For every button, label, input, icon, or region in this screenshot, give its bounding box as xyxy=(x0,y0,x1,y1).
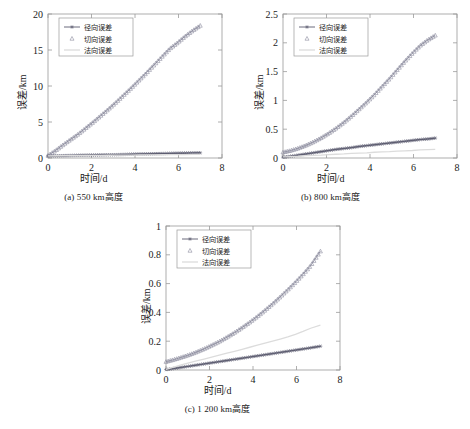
y-tick-label: 10 xyxy=(33,81,43,92)
plot-area-a: 0246805101520径向误差切向误差法向误差 xyxy=(0,0,235,185)
y-tick-label: 0 xyxy=(156,365,161,376)
legend-label: 切向误差 xyxy=(84,35,112,44)
legend-label: 径向误差 xyxy=(84,23,112,32)
x-axis-label-c: 时间/d xyxy=(100,382,335,397)
legend: 径向误差切向误差法向误差 xyxy=(294,18,368,56)
y-tick-label: 5 xyxy=(38,117,43,128)
plot-area-c: 0246800.20.40.60.81径向误差切向误差法向误差 xyxy=(118,212,353,397)
legend: 径向误差切向误差法向误差 xyxy=(59,18,133,56)
y-axis-label-b: 误差/km xyxy=(251,74,266,110)
caption-c: (c) 1 200 km高度 xyxy=(100,402,335,415)
subplot-a: 0246805101520径向误差切向误差法向误差 时间/d 误差/km (a)… xyxy=(0,0,235,215)
legend-label: 切向误差 xyxy=(202,247,230,256)
caption-a: (a) 550 km高度 xyxy=(0,190,211,203)
y-tick-label: 1 xyxy=(156,221,161,232)
y-tick-label: 0.5 xyxy=(266,124,279,135)
y-tick-label: 2 xyxy=(273,37,278,48)
legend-label: 法向误差 xyxy=(202,258,230,267)
x-tick-label: 8 xyxy=(455,162,460,173)
x-tick-label: 8 xyxy=(338,374,343,385)
y-axis-label-c: 误差/km xyxy=(138,288,153,324)
subplot-c: 0246800.20.40.60.81径向误差切向误差法向误差 时间/d 误差/… xyxy=(118,212,353,429)
subplot-b: 0246800.511.522.5径向误差切向误差法向误差 时间/d 误差/km… xyxy=(235,0,470,215)
legend-label: 径向误差 xyxy=(202,235,230,244)
y-tick-label: 0 xyxy=(38,153,43,164)
x-axis-label-a: 时间/d xyxy=(0,170,211,185)
y-axis-label-a: 误差/km xyxy=(14,74,29,110)
y-tick-label: 15 xyxy=(33,45,43,56)
legend: 径向误差切向误差法向误差 xyxy=(177,230,251,268)
x-axis-label-b: 时间/d xyxy=(213,170,448,185)
y-tick-label: 1.5 xyxy=(266,66,279,77)
y-tick-label: 20 xyxy=(33,9,43,20)
y-tick-label: 0.2 xyxy=(149,336,162,347)
caption-b: (b) 800 km高度 xyxy=(213,190,448,203)
y-tick-label: 2.5 xyxy=(266,9,279,20)
legend-label: 法向误差 xyxy=(84,46,112,55)
legend-label: 法向误差 xyxy=(319,46,347,55)
legend-label: 径向误差 xyxy=(319,23,347,32)
y-tick-label: 1 xyxy=(273,95,278,106)
legend-label: 切向误差 xyxy=(319,35,347,44)
plot-area-b: 0246800.511.522.5径向误差切向误差法向误差 xyxy=(235,0,470,185)
y-tick-label: 0 xyxy=(273,153,278,164)
figure-root: 0246805101520径向误差切向误差法向误差 时间/d 误差/km (a)… xyxy=(0,0,470,429)
y-tick-label: 0.8 xyxy=(149,249,162,260)
